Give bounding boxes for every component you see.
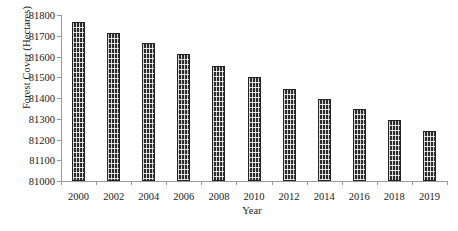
y-tick-label: 81600 [29, 51, 55, 62]
x-tick [61, 181, 62, 185]
x-tick [96, 181, 97, 185]
bar [423, 131, 436, 181]
x-tick [236, 181, 237, 185]
x-tick-label: 2014 [314, 191, 335, 202]
x-tick-label: 2012 [279, 191, 300, 202]
x-tick-label: 2018 [384, 191, 405, 202]
x-axis-title: Year [57, 205, 447, 216]
y-tick-label: 81700 [29, 30, 55, 41]
x-tick-label: 2019 [419, 191, 440, 202]
x-axis-line [61, 181, 447, 182]
y-tick [57, 140, 61, 141]
x-tick [131, 181, 132, 185]
y-tick-label: 81800 [29, 10, 55, 21]
y-axis-line [61, 15, 62, 181]
x-tick-label: 2016 [349, 191, 370, 202]
y-tick-label: 81400 [29, 93, 55, 104]
y-tick [57, 119, 61, 120]
y-tick-label: 81200 [29, 134, 55, 145]
y-tick-label: 81500 [29, 72, 55, 83]
bar [388, 120, 401, 181]
x-tick-label: 2008 [208, 191, 229, 202]
bar [142, 43, 155, 181]
x-tick [377, 181, 378, 185]
y-tick-label: 81100 [29, 155, 55, 166]
x-tick [307, 181, 308, 185]
x-tick [201, 181, 202, 185]
y-tick [57, 36, 61, 37]
y-tick-label: 81000 [29, 176, 55, 187]
bar [318, 99, 331, 181]
y-tick [57, 57, 61, 58]
bar [283, 89, 296, 181]
y-tick-label: 81300 [29, 113, 55, 124]
x-tick-label: 2010 [244, 191, 265, 202]
y-tick [57, 160, 61, 161]
x-tick [342, 181, 343, 185]
y-tick [57, 98, 61, 99]
x-tick-label: 2002 [103, 191, 124, 202]
bar [107, 33, 120, 181]
y-tick [57, 15, 61, 16]
chart-figure: Forest Cover (Hectares) Year 81000811008… [0, 0, 458, 231]
x-tick-label: 2006 [173, 191, 194, 202]
x-tick [166, 181, 167, 185]
y-tick [57, 77, 61, 78]
bar [212, 66, 225, 181]
bar [353, 109, 366, 181]
bar [72, 22, 85, 181]
x-tick [412, 181, 413, 185]
plot-area: 8100081100812008130081400815008160081700… [61, 15, 447, 181]
x-tick [447, 181, 448, 185]
x-tick-label: 2000 [68, 191, 89, 202]
bar [177, 54, 190, 181]
bar [248, 77, 261, 181]
x-tick-label: 2004 [138, 191, 159, 202]
x-tick [272, 181, 273, 185]
